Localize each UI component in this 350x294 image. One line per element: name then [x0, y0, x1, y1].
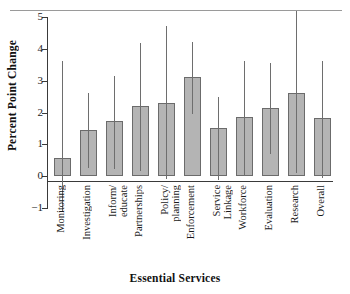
header-rule	[10, 10, 342, 11]
y-tick: 4	[47, 49, 53, 50]
y-tick-label: 2	[38, 106, 44, 119]
y-tick-label: 0	[38, 169, 44, 182]
x-axis-title: Essential Services	[0, 272, 350, 284]
error-bar	[166, 26, 167, 179]
y-tick-label: −1	[31, 201, 43, 214]
y-tick: 0	[47, 176, 53, 177]
error-bar	[244, 61, 245, 176]
y-tick-label: 5	[38, 10, 44, 23]
x-tick-label: Research	[289, 185, 300, 223]
x-tick-label: Monitoring	[55, 185, 66, 233]
x-tick-label: Evaluation	[263, 185, 274, 231]
error-bar	[218, 97, 219, 180]
plot-area: −1012345 MonitoringInvestigationInform/ …	[47, 17, 333, 208]
y-tick: 2	[47, 113, 53, 114]
error-bar	[322, 61, 323, 178]
error-bar	[270, 63, 271, 154]
error-bar	[140, 43, 141, 171]
error-bar	[192, 42, 193, 114]
x-tick-label: Enforcement	[185, 185, 196, 239]
x-axis-zero-line	[47, 181, 333, 182]
x-tick-label: Partnerships	[133, 185, 144, 237]
x-tick-label: Workforce	[237, 185, 248, 230]
y-tick: 3	[47, 81, 53, 82]
y-tick: 5	[47, 17, 53, 18]
y-tick-label: 4	[38, 42, 44, 55]
x-tick-label: Service Linkage	[211, 185, 233, 219]
y-tick-label: 3	[38, 74, 44, 87]
y-tick: −1	[47, 208, 53, 209]
chart-figure: Percent Point Change −1012345 Monitoring…	[0, 0, 350, 294]
y-tick: 1	[47, 144, 53, 145]
error-bar	[114, 76, 115, 169]
error-bar	[88, 93, 89, 168]
x-tick-label: Overall	[315, 185, 326, 217]
y-tick-label: 1	[38, 137, 44, 150]
x-tick-label: Inform/ educate	[107, 185, 129, 217]
error-bar	[296, 11, 297, 173]
x-tick-label: Investigation	[81, 185, 92, 240]
x-tick-label: Policy/ planning	[159, 185, 181, 222]
y-axis-title: Percent Point Change	[6, 40, 18, 151]
